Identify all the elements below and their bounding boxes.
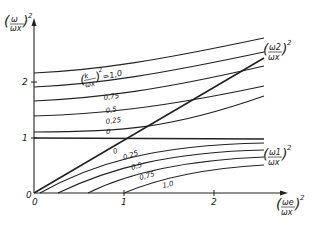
upper-branch-label: ( ω2 ωx ) 2	[263, 39, 292, 62]
lower-branch-curves	[40, 143, 264, 193]
tick-y2: 2	[22, 77, 28, 87]
tick-x2: 2	[211, 197, 217, 207]
svg-text:ωx: ωx	[10, 24, 22, 33]
tick-y1: 1	[22, 133, 28, 143]
svg-text:0,5: 0,5	[105, 105, 118, 115]
svg-text:ω: ω	[11, 15, 18, 24]
unity-line	[34, 138, 264, 139]
svg-text:ωe: ωe	[282, 198, 294, 207]
upper-branch-curves	[34, 38, 264, 132]
parameter-label: ( k ωx ) 2 =1,0	[78, 62, 124, 90]
dispersion-chart: 1 2 1 2 0 0 ( ω ωx ) 2 ( ω2 ωx ) 2	[0, 0, 315, 228]
axes	[34, 22, 282, 193]
svg-text:2: 2	[300, 194, 305, 202]
svg-text:ωx: ωx	[268, 53, 280, 62]
svg-text:=1,0: =1,0	[102, 69, 123, 82]
svg-text:ω2: ω2	[269, 43, 281, 52]
svg-text:ωx: ωx	[268, 158, 280, 167]
x-axis-arrow-icon	[280, 191, 288, 196]
svg-text:ω1: ω1	[269, 148, 281, 157]
svg-text:0: 0	[106, 128, 111, 136]
svg-text:ωx: ωx	[84, 79, 96, 89]
svg-text:k: k	[83, 71, 90, 80]
lower-branch-label: ( ω1 ωx ) 2	[263, 144, 292, 167]
svg-text:0,75: 0,75	[103, 92, 120, 102]
y-axis-label: ( ω ωx ) 2	[4, 12, 33, 33]
svg-text:0,25: 0,25	[122, 149, 140, 162]
tick-x1: 1	[121, 197, 127, 207]
svg-text:0,75: 0,75	[138, 170, 156, 182]
svg-text:2: 2	[287, 144, 292, 152]
x-axis-label: ( ωe ωx ) 2	[276, 194, 305, 217]
svg-text:2: 2	[28, 12, 33, 20]
svg-text:1,0: 1,0	[162, 180, 175, 190]
svg-text:0: 0	[112, 147, 119, 156]
svg-text:0,25: 0,25	[105, 116, 122, 126]
svg-text:ωx: ωx	[281, 208, 293, 217]
svg-text:0,5: 0,5	[130, 161, 144, 172]
origin-x-label: 0	[32, 197, 38, 207]
svg-text:2: 2	[287, 39, 292, 47]
